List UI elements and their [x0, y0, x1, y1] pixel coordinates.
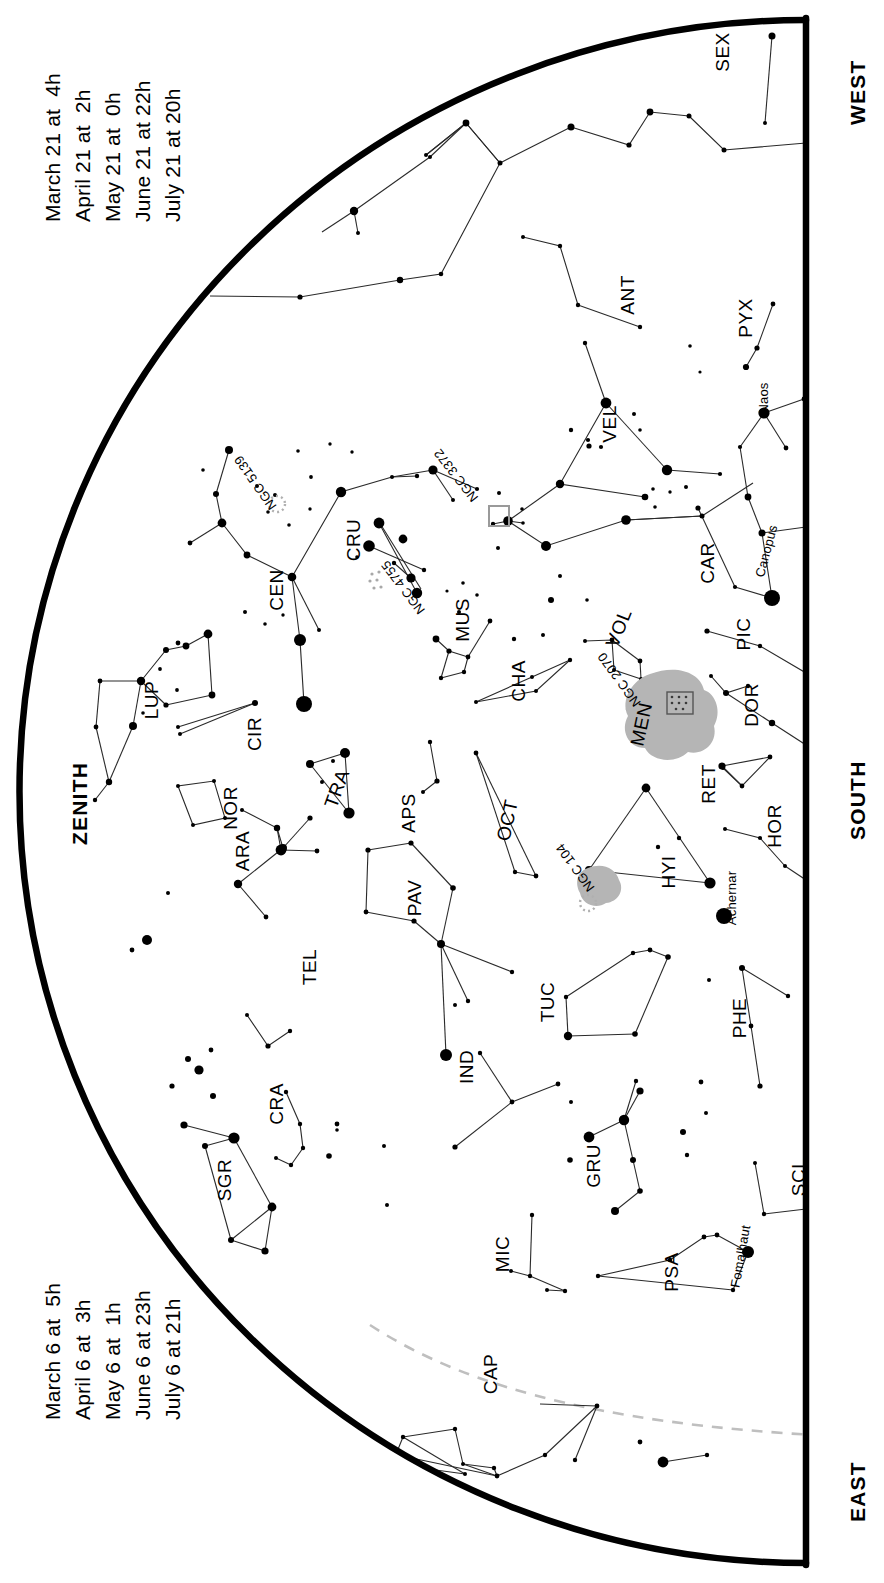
constellation-label-cha: CHA [508, 660, 530, 702]
constellation-label-cru: CRU [343, 519, 365, 562]
constellation-label-pav: PAV [404, 880, 426, 917]
cardinal-zenith: ZENITH [68, 762, 92, 845]
constellation-label-scl: SCL [788, 1158, 810, 1196]
constellation-label-cra: CRA [266, 1083, 288, 1125]
time-row: May 6 at 1h [98, 1283, 128, 1420]
cardinal-east: EAST [846, 1461, 870, 1522]
time-row: April 6 at 3h [68, 1283, 98, 1420]
constellation-label-cen: CEN [266, 569, 288, 611]
constellation-label-sgr: SGR [214, 1159, 236, 1202]
constellation-label-pic: PIC [733, 617, 755, 650]
constellation-label-vel: VEL [599, 405, 621, 442]
star-label-achernar: Achernar [724, 871, 739, 925]
time-table-lower: March 6 at 5h April 6 at 3h May 6 at 1h … [38, 1283, 188, 1420]
star-chart: WEST ZENITH SOUTH EAST March 21 at 4h Ap… [0, 0, 884, 1583]
time-row: May 21 at 0h [98, 73, 128, 222]
constellation-label-ara: ARA [232, 831, 254, 872]
constellation-label-sex: SEX [712, 32, 734, 72]
constellation-label-tel: TEL [299, 949, 321, 985]
star-label-naos: Naos [756, 382, 771, 413]
cardinal-south: SOUTH [846, 761, 870, 841]
time-row: June 21 at 22h [128, 73, 158, 222]
time-row: April 21 at 2h [68, 73, 98, 222]
constellation-label-mus: MUS [452, 598, 474, 642]
constellation-label-ant: ANT [617, 275, 639, 315]
time-row: July 21 at 20h [158, 73, 188, 222]
time-row: July 6 at 21h [158, 1283, 188, 1420]
constellation-label-cir: CIR [244, 717, 266, 751]
constellation-label-aps: APS [398, 793, 420, 833]
constellation-label-psa: PSA [661, 1252, 683, 1292]
time-row: June 6 at 23h [128, 1283, 158, 1420]
time-row: March 21 at 4h [38, 73, 68, 222]
time-row: March 6 at 5h [38, 1283, 68, 1420]
time-table-upper: March 21 at 4h April 21 at 2h May 21 at … [38, 73, 188, 222]
constellation-label-lup: LUP [141, 681, 163, 719]
constellation-label-ind: IND [456, 1050, 478, 1084]
constellation-label-gru: GRU [583, 1144, 605, 1188]
constellation-label-pyx: PYX [735, 298, 757, 338]
constellation-label-hor: HOR [764, 804, 786, 848]
constellation-label-ret: RET [698, 764, 720, 804]
constellation-label-dor: DOR [741, 683, 763, 727]
cardinal-west: WEST [846, 60, 870, 125]
constellation-label-car: CAR [697, 542, 719, 584]
constellation-label-tuc: TUC [537, 982, 559, 1023]
constellation-label-cap: CAP [480, 1354, 502, 1395]
constellation-label-nor: NOR [220, 786, 242, 830]
constellation-label-mic: MIC [492, 1236, 514, 1272]
constellation-label-phe: PHE [729, 998, 751, 1039]
constellation-label-hyi: HYI [658, 855, 680, 888]
